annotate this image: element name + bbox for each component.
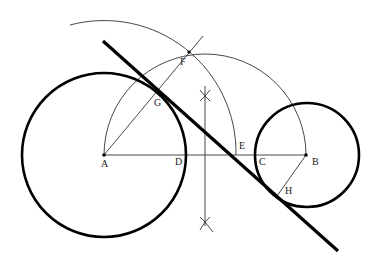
label-c: C bbox=[259, 156, 266, 167]
label-b: B bbox=[312, 156, 319, 167]
geometry-diagram: A B C D E F G H bbox=[0, 0, 383, 267]
tangent-line bbox=[103, 41, 338, 251]
label-d: D bbox=[175, 156, 182, 167]
point-f bbox=[187, 50, 190, 53]
label-e: E bbox=[239, 140, 245, 151]
label-g: G bbox=[154, 97, 161, 108]
label-h: H bbox=[285, 185, 292, 196]
label-a: A bbox=[101, 158, 109, 169]
label-f: F bbox=[180, 56, 186, 67]
point-a bbox=[102, 153, 106, 157]
perpendicular-bisector bbox=[200, 86, 213, 232]
point-b bbox=[304, 153, 308, 157]
